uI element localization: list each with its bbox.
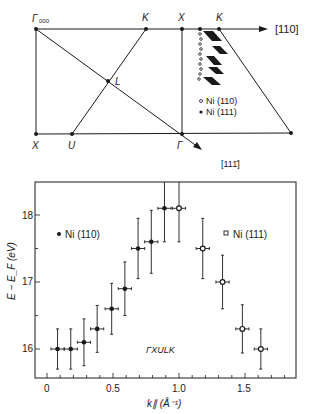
xtick-1-0: 1.0 xyxy=(172,383,186,394)
label-k2: K xyxy=(216,12,224,23)
chart: 18 17 16 0 0.5 1.0 1.5 k∥ (Å⁻¹) E − E_F … xyxy=(6,182,296,410)
diagram-legend: Ni (110) Ni (111) xyxy=(199,96,237,117)
point-gamma xyxy=(180,132,184,136)
bz-diagram xyxy=(36,29,291,147)
data-point xyxy=(118,262,131,316)
point-x1 xyxy=(180,27,184,31)
point-x2 xyxy=(34,132,38,136)
data-point xyxy=(216,255,229,309)
label-u: U xyxy=(68,140,76,151)
label-dir-110: [110] xyxy=(275,23,299,35)
point-l xyxy=(106,79,110,83)
axis-11m1-line xyxy=(36,29,198,147)
arrow-11m1-icon xyxy=(193,142,202,150)
xtick-1-5: 1.5 xyxy=(237,383,251,394)
data-point xyxy=(64,329,77,369)
data-point xyxy=(196,218,209,278)
point-k1 xyxy=(144,27,148,31)
label-dir-11m1: [111̄] xyxy=(221,159,240,169)
data-points xyxy=(51,182,267,369)
legend-filled-circle-icon xyxy=(199,110,202,113)
arrow-110-icon xyxy=(259,26,268,32)
point-u xyxy=(70,132,74,136)
point-k2 xyxy=(217,27,221,31)
xtick-0-5: 0.5 xyxy=(106,383,120,394)
data-point xyxy=(254,329,267,369)
label-gamma000-sub: 000 xyxy=(39,18,50,24)
data-point xyxy=(51,329,64,369)
point-edge xyxy=(198,27,202,31)
data-point xyxy=(131,218,144,278)
label-x1: X xyxy=(177,12,185,23)
ytick-18: 18 xyxy=(22,210,34,221)
data-point xyxy=(105,283,118,334)
data-point xyxy=(91,305,104,352)
legend-open-circle-icon xyxy=(200,100,203,103)
legend-open-marker-icon xyxy=(224,231,228,235)
legend-ni110: Ni (110) xyxy=(206,96,237,106)
label-gamma: Γ xyxy=(177,140,184,151)
xtick-0: 0 xyxy=(44,383,50,394)
path-annotation: ΓXULK xyxy=(146,345,176,355)
label-l: L xyxy=(115,76,121,87)
label-k1: K xyxy=(142,12,150,23)
point-right-corner xyxy=(289,131,293,135)
legend-ni110-chart: Ni (110) xyxy=(65,229,100,240)
figure: Γ 000 K X K L X U Γ [110] [111̄] Ni (110… xyxy=(0,0,310,414)
point-gamma000 xyxy=(34,27,38,31)
data-point xyxy=(77,319,90,366)
y-axis-label: E − E_F (eV) xyxy=(6,242,17,300)
data-point xyxy=(236,305,249,353)
x-axis-label: k∥ (Å⁻¹) xyxy=(147,397,181,410)
bz-points xyxy=(34,27,293,136)
legend-ni111-chart: Ni (111) xyxy=(233,229,267,240)
data-point xyxy=(145,210,158,273)
data-point xyxy=(172,182,185,242)
edge-k-right xyxy=(219,29,291,133)
edge-x-gamma-bottom xyxy=(36,133,291,134)
ytick-16: 16 xyxy=(22,343,34,354)
label-gamma000: Γ xyxy=(32,13,39,24)
label-x2: X xyxy=(31,140,39,151)
ytick-17: 17 xyxy=(22,276,34,287)
legend-filled-marker-icon xyxy=(57,232,61,236)
legend-ni111: Ni (111) xyxy=(206,107,237,117)
sample-open-points xyxy=(198,33,203,81)
sample-filled-patches xyxy=(203,31,228,85)
data-point xyxy=(158,182,171,242)
